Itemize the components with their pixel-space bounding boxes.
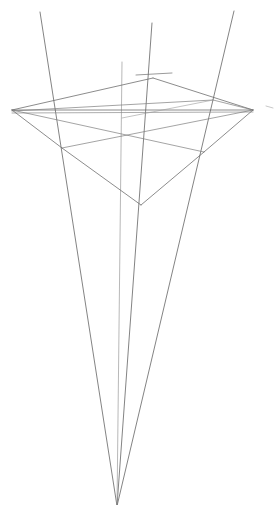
canvas-background <box>0 0 275 505</box>
wireframe-svg <box>0 0 275 505</box>
drawing-canvas: Perspective Wireframe Construction techn… <box>0 0 275 505</box>
